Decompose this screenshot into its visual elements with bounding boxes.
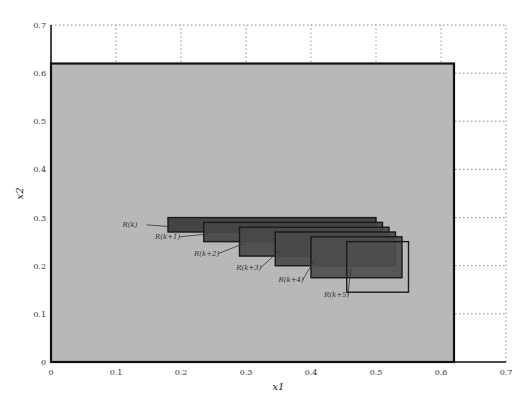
y-axis-label: x2 [14,187,25,199]
region-label: R(k+1) [154,233,181,241]
y-tick-label: 0.3 [33,214,46,223]
y-tick-label: 0.4 [33,165,46,174]
y-tick-label: 0.5 [33,117,46,126]
y-tick-label: 0.6 [33,69,46,78]
x-tick-label: 0.4 [305,368,318,377]
chart: 00.10.20.30.40.50.60.700.10.20.30.40.50.… [0,0,530,401]
y-tick-label: 0 [41,358,46,367]
x-tick-label: 0.6 [435,368,448,377]
region-rk4 [311,237,402,278]
region-label: R(k+4) [278,276,305,284]
region-label: R(k+5) [323,291,350,299]
x-tick-label: 0.1 [110,368,123,377]
x-tick-label: 0.3 [240,368,253,377]
x-tick-label: 0 [48,368,53,377]
y-tick-label: 0.1 [33,310,46,319]
x-tick-label: 0.5 [370,368,383,377]
y-tick-label: 0.2 [33,262,46,271]
region-label: R(k+3) [235,264,262,272]
x-tick-label: 0.2 [175,368,188,377]
x-tick-label: 0.7 [500,368,513,377]
x-axis-label: x1 [272,381,284,392]
region-label: R(k+2) [193,250,220,258]
y-tick-label: 0.7 [33,21,46,30]
region-label: R(k) [122,221,138,229]
feasible-region [51,64,454,362]
